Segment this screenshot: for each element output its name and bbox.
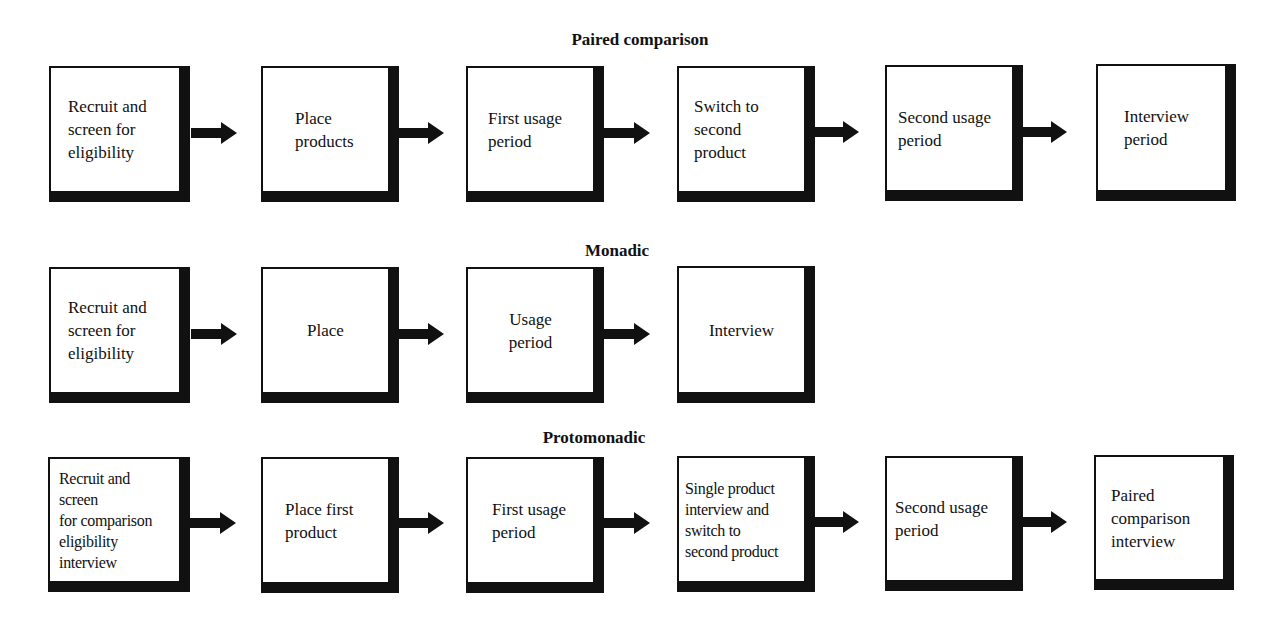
step-label: Second usage period	[887, 496, 988, 542]
right-arrow-icon	[191, 323, 237, 345]
step-recruit-screen-comparison: Recruit and screen for comparison eligib…	[48, 457, 190, 592]
section-title-monadic: Monadic	[585, 241, 649, 261]
step-label: Place	[307, 319, 344, 342]
step-place-first-product: Place first product	[261, 457, 399, 593]
step-label: Interview	[709, 319, 774, 342]
step-recruit-screen: Recruit and screen for eligibility	[49, 66, 190, 202]
step-single-product-interview: Single product interview and switch to s…	[677, 456, 815, 592]
step-usage-period: Usage period	[466, 267, 604, 403]
step-first-usage-period: First usage period	[466, 66, 604, 202]
right-arrow-icon	[604, 323, 650, 345]
step-label: Usage period	[509, 308, 552, 354]
step-paired-comparison-interview: Paired comparison interview	[1094, 455, 1234, 590]
right-arrow-icon	[398, 323, 444, 345]
right-arrow-icon	[604, 512, 650, 534]
section-title-protomonadic: Protomonadic	[543, 428, 646, 448]
step-switch-to-second-product: Switch to second product	[677, 66, 815, 202]
step-place: Place	[261, 267, 399, 403]
step-label: First usage period	[468, 498, 566, 544]
right-arrow-icon	[398, 512, 444, 534]
section-title-paired-comparison: Paired comparison	[571, 30, 708, 50]
step-label: Recruit and screen for eligibility	[51, 95, 147, 164]
step-place-products: Place products	[261, 66, 399, 202]
step-label: Paired comparison interview	[1096, 484, 1190, 553]
step-label: Recruit and screen for comparison eligib…	[50, 468, 152, 573]
step-label: Single product interview and switch to s…	[679, 478, 778, 562]
step-label: First usage period	[468, 107, 562, 153]
right-arrow-icon	[1021, 511, 1067, 533]
step-second-usage-period: Second usage period	[885, 456, 1023, 591]
step-label: Recruit and screen for eligibility	[51, 296, 147, 365]
right-arrow-icon	[398, 122, 444, 144]
right-arrow-icon	[813, 511, 859, 533]
step-first-usage-period: First usage period	[466, 457, 604, 593]
step-interview: Interview	[677, 266, 815, 403]
step-recruit-screen: Recruit and screen for eligibility	[49, 267, 190, 403]
step-label: Second usage period	[887, 106, 991, 152]
right-arrow-icon	[190, 512, 236, 534]
step-label: Interview period	[1098, 105, 1189, 151]
right-arrow-icon	[191, 122, 237, 144]
right-arrow-icon	[1021, 121, 1067, 143]
step-second-usage-period: Second usage period	[885, 65, 1023, 201]
step-label: Place first product	[263, 498, 353, 544]
right-arrow-icon	[604, 122, 650, 144]
right-arrow-icon	[813, 121, 859, 143]
step-label: Switch to second product	[679, 95, 759, 164]
step-interview-period: Interview period	[1096, 64, 1236, 201]
step-label: Place products	[263, 107, 354, 153]
